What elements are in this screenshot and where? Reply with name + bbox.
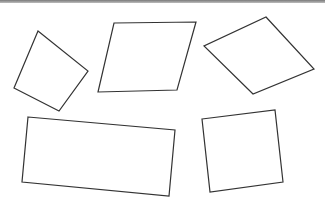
quadrilateral-3 <box>204 17 314 94</box>
quadrilateral-2 <box>98 22 196 92</box>
quadrilateral-5 <box>202 110 283 192</box>
quadrilateral-1 <box>14 31 88 111</box>
shapes-canvas <box>0 0 325 208</box>
quadrilateral-4 <box>22 117 175 196</box>
